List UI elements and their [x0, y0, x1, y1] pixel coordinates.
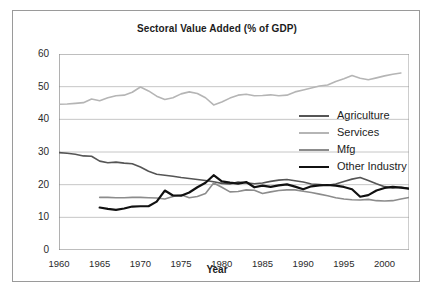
legend-label: Agriculture: [337, 110, 390, 121]
y-tick-label: 30: [23, 146, 49, 157]
legend-swatch-line-icon: [299, 115, 329, 117]
x-axis-title: Year: [13, 264, 421, 275]
y-tick-label: 0: [23, 244, 49, 255]
series-line-services: [59, 73, 401, 105]
chart-legend: AgricultureServicesMfgOther Industry: [299, 107, 431, 175]
legend-swatch-line-icon: [299, 166, 329, 168]
legend-item-services[interactable]: Services: [299, 124, 431, 141]
chart-frame: Sectoral Value Added (% of GDP) 01020304…: [12, 10, 420, 282]
y-tick-label: 50: [23, 81, 49, 92]
series-line-other-industry: [100, 175, 409, 210]
legend-item-other-industry[interactable]: Other Industry: [299, 158, 431, 175]
y-tick-label: 10: [23, 211, 49, 222]
y-tick-label: 40: [23, 113, 49, 124]
legend-swatch-line-icon: [299, 149, 329, 151]
legend-label: Services: [337, 127, 379, 138]
y-tick-label: 20: [23, 179, 49, 190]
legend-swatch-line-icon: [299, 132, 329, 134]
legend-label: Other Industry: [337, 161, 407, 172]
legend-label: Mfg: [337, 144, 355, 155]
series-line-mfg: [100, 183, 409, 201]
legend-item-mfg[interactable]: Mfg: [299, 141, 431, 158]
legend-item-agriculture[interactable]: Agriculture: [299, 107, 431, 124]
chart-title: Sectoral Value Added (% of GDP): [13, 23, 421, 34]
y-tick-label: 60: [23, 48, 49, 59]
